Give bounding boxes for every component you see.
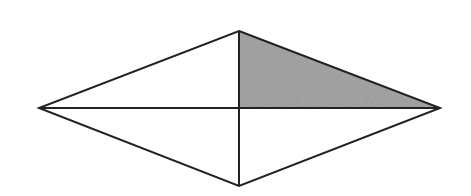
rhombus-diagram bbox=[0, 0, 471, 196]
diagram-canvas bbox=[0, 0, 471, 196]
